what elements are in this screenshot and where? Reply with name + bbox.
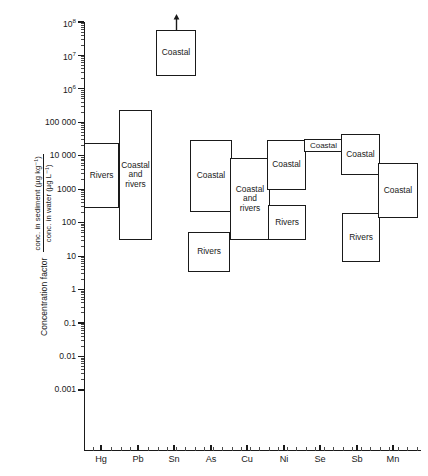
y-tick-minor — [81, 129, 85, 130]
y-tick-minor — [81, 72, 85, 73]
data-box-sb-rivers: Rivers — [342, 213, 380, 262]
y-tick-minor — [81, 246, 85, 247]
y-tick-minor — [81, 123, 85, 124]
x-tick-minor — [380, 447, 381, 451]
y-tick-label: 1 — [71, 285, 76, 294]
x-tick — [283, 445, 284, 451]
data-box-label: Coastal — [309, 141, 338, 150]
y-tick-minor — [81, 27, 85, 28]
data-box-label: Rivers — [274, 218, 300, 227]
y-tick-minor — [81, 230, 85, 231]
y-tick-minor — [81, 94, 85, 95]
y-tick-minor — [81, 62, 85, 63]
x-tick-minor — [204, 447, 205, 451]
x-tick — [246, 445, 247, 451]
x-tick — [210, 445, 211, 451]
y-tick-minor — [81, 373, 85, 374]
y-tick-minor — [81, 312, 85, 313]
x-tick — [356, 445, 357, 451]
x-tick-label-cu: Cu — [227, 455, 267, 464]
y-tick-minor — [81, 257, 85, 258]
x-tick-label-se: Se — [300, 455, 340, 464]
y-tick-minor — [81, 302, 85, 303]
y-tick-minor — [81, 29, 85, 30]
x-tick-minor — [306, 447, 307, 451]
x-tick-minor — [222, 447, 223, 451]
data-box-label: Rivers — [196, 247, 222, 256]
up-arrow-icon — [172, 14, 181, 35]
y-tick-minor — [81, 333, 85, 334]
x-tick-minor — [269, 447, 270, 451]
y-tick-minor — [81, 361, 85, 362]
data-box-as-rivers: Rivers — [188, 232, 230, 272]
y-tick-minor — [81, 96, 85, 97]
y-tick-minor — [81, 297, 85, 298]
y-tick-minor — [81, 102, 85, 103]
data-box-label: Coastal — [383, 186, 413, 195]
x-tick-minor — [315, 447, 316, 451]
x-tick-label-as: As — [191, 455, 231, 464]
y-tick-minor — [81, 291, 85, 292]
y-tick-minor — [81, 135, 85, 136]
y-tick-minor — [81, 25, 85, 26]
x-tick — [137, 445, 138, 451]
y-tick-minor — [81, 92, 85, 93]
y-tick-minor — [81, 259, 85, 260]
y-tick-major — [78, 389, 84, 390]
x-tick — [100, 445, 101, 451]
x-tick-label-sb: Sb — [337, 455, 377, 464]
x-tick-minor — [361, 447, 362, 451]
x-tick — [173, 445, 174, 451]
concentration-factor-chart: Concentration factor conc. in sediment (… — [0, 0, 428, 476]
data-box-label: Coastal — [196, 171, 226, 180]
x-tick-minor — [417, 447, 418, 451]
x-tick-minor — [352, 447, 353, 451]
y-tick-minor — [81, 366, 85, 367]
y-tick-minor — [81, 330, 85, 331]
y-axis-line — [84, 22, 85, 451]
y-tick-minor — [81, 45, 85, 46]
y-tick-minor — [81, 336, 85, 337]
y-tick-minor — [81, 359, 85, 360]
y-tick-minor — [81, 379, 85, 380]
data-box-mn-coastal: Coastal — [378, 163, 418, 218]
y-tick-minor — [81, 56, 85, 57]
y-tick-minor — [81, 273, 85, 274]
data-box-as-coastal: Coastal — [190, 140, 232, 212]
y-tick-minor — [81, 58, 85, 59]
y-tick-minor — [81, 139, 85, 140]
y-tick-minor — [81, 35, 85, 36]
x-tick — [392, 445, 393, 451]
y-tick-minor — [81, 294, 85, 295]
y-axis-title-main: Concentration factor — [39, 257, 49, 336]
x-tick-minor — [278, 447, 279, 451]
y-tick-minor — [81, 125, 85, 126]
data-box-label: Coastal and rivers — [235, 185, 265, 213]
y-tick-minor — [81, 78, 85, 79]
data-box-sn-coastal: Coastal — [156, 30, 196, 76]
y-tick-minor — [81, 106, 85, 107]
y-tick-label: 100 000 — [45, 118, 76, 127]
data-box-pb-coastal: Coastal and rivers — [119, 110, 152, 240]
y-tick-minor — [81, 299, 85, 300]
data-box-se-coastal: Coastal — [304, 139, 343, 152]
x-tick-minor — [158, 447, 159, 451]
y-tick-minor — [81, 23, 85, 24]
x-tick-minor — [370, 447, 371, 451]
x-tick-minor — [287, 447, 288, 451]
x-tick-minor — [296, 447, 297, 451]
x-tick-minor — [324, 447, 325, 451]
x-tick-minor — [111, 447, 112, 451]
y-tick-label: 10 — [66, 252, 76, 261]
y-tick-minor — [81, 112, 85, 113]
x-tick-label-hg: Hg — [81, 455, 121, 464]
y-tick-minor — [81, 227, 85, 228]
x-tick-minor — [130, 447, 131, 451]
y-axis-title-group: Concentration factor conc. in sediment (… — [0, 0, 46, 440]
x-tick-minor — [333, 447, 334, 451]
y-tick-minor — [81, 266, 85, 267]
y-tick-label: 1000 — [57, 185, 76, 194]
y-tick-minor — [81, 340, 85, 341]
y-tick-minor — [81, 90, 85, 91]
x-tick-minor — [167, 447, 168, 451]
